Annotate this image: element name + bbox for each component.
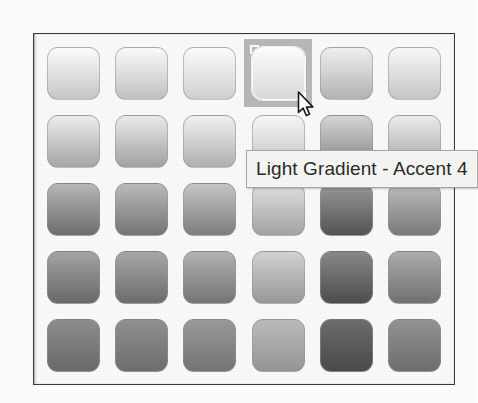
gradient-swatch-cell-r5-c5[interactable] — [312, 311, 380, 379]
gradient-swatch-cell-r4-c6[interactable] — [381, 243, 449, 311]
gradient-swatch[interactable] — [252, 47, 305, 100]
gradient-swatch[interactable] — [183, 183, 236, 236]
gradient-swatch-grid[interactable] — [39, 39, 449, 379]
gradient-swatch-cell-r4-c2[interactable] — [107, 243, 175, 311]
gradient-swatch[interactable] — [320, 183, 373, 236]
gradient-swatch-cell-r3-c1[interactable] — [39, 175, 107, 243]
gradient-swatch[interactable] — [388, 183, 441, 236]
gradient-swatch[interactable] — [183, 251, 236, 304]
gradient-swatch-cell-r4-c3[interactable] — [176, 243, 244, 311]
gradient-swatch-cell-r2-c2[interactable] — [107, 107, 175, 175]
gradient-swatch-cell-r5-c2[interactable] — [107, 311, 175, 379]
gradient-swatch[interactable] — [47, 115, 100, 168]
gradient-swatch[interactable] — [47, 319, 100, 372]
gradient-swatch[interactable] — [183, 319, 236, 372]
gradient-swatch[interactable] — [252, 251, 305, 304]
gradient-swatch[interactable] — [47, 47, 100, 100]
gradient-swatch[interactable] — [115, 115, 168, 168]
gradient-swatch-cell-r5-c6[interactable] — [381, 311, 449, 379]
gradient-swatch[interactable] — [320, 251, 373, 304]
gradient-swatch[interactable] — [183, 115, 236, 168]
gradient-swatch-cell-r2-c3[interactable] — [176, 107, 244, 175]
gradient-swatch-cell-r4-c1[interactable] — [39, 243, 107, 311]
gradient-swatch[interactable] — [115, 251, 168, 304]
gradient-swatch[interactable] — [320, 319, 373, 372]
gradient-swatch-cell-r1-c4[interactable] — [244, 39, 312, 107]
gradient-swatch-cell-r1-c2[interactable] — [107, 39, 175, 107]
gradient-swatch-cell-r1-c6[interactable] — [381, 39, 449, 107]
gradient-swatch-cell-r5-c1[interactable] — [39, 311, 107, 379]
gradient-swatch[interactable] — [388, 319, 441, 372]
gradient-swatch[interactable] — [47, 251, 100, 304]
gradient-swatch[interactable] — [388, 251, 441, 304]
gradient-swatch[interactable] — [115, 183, 168, 236]
gradient-swatch-cell-r5-c4[interactable] — [244, 311, 312, 379]
gradient-swatch[interactable] — [47, 183, 100, 236]
gradient-fill-gallery-panel[interactable]: Light Gradient - Accent 4 — [33, 33, 455, 385]
gradient-swatch[interactable] — [388, 47, 441, 100]
gradient-swatch-cell-r3-c2[interactable] — [107, 175, 175, 243]
gradient-swatch-cell-r4-c4[interactable] — [244, 243, 312, 311]
gradient-swatch-cell-r1-c1[interactable] — [39, 39, 107, 107]
gradient-swatch[interactable] — [252, 183, 305, 236]
gradient-swatch-cell-r1-c5[interactable] — [312, 39, 380, 107]
gradient-swatch-cell-r1-c3[interactable] — [176, 39, 244, 107]
gradient-swatch-cell-r5-c3[interactable] — [176, 311, 244, 379]
gradient-swatch[interactable] — [115, 47, 168, 100]
gradient-swatch[interactable] — [252, 319, 305, 372]
gradient-swatch-cell-r2-c1[interactable] — [39, 107, 107, 175]
gradient-tooltip-label: Light Gradient - Accent 4 — [256, 158, 468, 180]
gradient-tooltip: Light Gradient - Accent 4 — [246, 150, 478, 188]
gradient-swatch[interactable] — [183, 47, 236, 100]
gradient-swatch[interactable] — [115, 319, 168, 372]
gradient-swatch-cell-r4-c5[interactable] — [312, 243, 380, 311]
gradient-swatch-cell-r3-c3[interactable] — [176, 175, 244, 243]
gradient-swatch[interactable] — [320, 47, 373, 100]
